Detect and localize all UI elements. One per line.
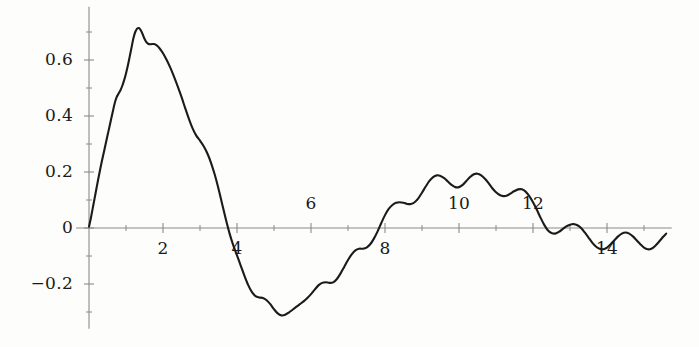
y-tick-label: 0.4: [11, 105, 73, 125]
y-tick-label: −0.2: [11, 273, 73, 293]
y-tick-label: 0.2: [11, 161, 73, 181]
x-tick-label: 14: [582, 238, 632, 258]
x-tick-label: 6: [286, 193, 336, 213]
axes-group: [76, 7, 672, 329]
signal-curve: [89, 28, 666, 315]
waveform-chart: [0, 0, 699, 347]
y-tick-label: 0: [11, 217, 73, 237]
x-tick-label: 2: [138, 238, 188, 258]
y-tick-label: 0.6: [11, 49, 73, 69]
chart-page: −0.200.20.40.62468101214: [0, 0, 699, 347]
x-tick-label: 10: [434, 193, 484, 213]
x-tick-label: 12: [508, 193, 558, 213]
x-tick-label: 8: [360, 238, 410, 258]
ticks-group: [84, 32, 644, 312]
x-tick-label: 4: [212, 238, 262, 258]
